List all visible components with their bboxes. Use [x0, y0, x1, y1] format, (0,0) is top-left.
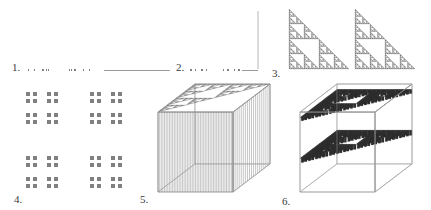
panel-6-artwork [0, 0, 431, 210]
fractal-figure: 1. 2. 3. 4. 5. 6. [0, 0, 431, 210]
